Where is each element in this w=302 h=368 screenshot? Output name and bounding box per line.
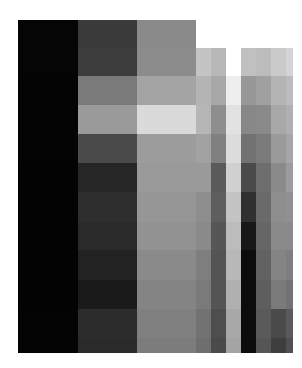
mosaic-cell [271,76,286,105]
mosaic-cell [256,309,271,338]
mosaic-cell [18,222,78,250]
mosaic-cell [226,76,241,105]
mosaic-cell [78,20,137,48]
mosaic-cell [226,105,241,134]
mosaic-cell [78,76,137,105]
mosaic-cell [241,76,256,105]
mosaic-cell [18,280,78,309]
mosaic-cell [137,105,196,134]
mosaic-cell [196,134,211,163]
mosaic-cell [18,192,78,222]
mosaic-cell [271,338,286,353]
mosaic-cell [211,309,226,338]
mosaic-cell [211,338,226,353]
mosaic-cell [196,309,211,338]
mosaic-cell [137,192,196,222]
mosaic-cell [256,76,271,105]
mosaic-cell [137,338,196,353]
mosaic-cell [226,338,241,353]
mosaic-cell [271,48,286,76]
mosaic-cell [271,134,286,163]
mosaic-cell [241,163,256,192]
mosaic-cell [286,76,293,105]
mosaic-cell [241,280,256,309]
mosaic-cell [18,105,78,134]
mosaic-cell [286,338,293,353]
mosaic-cell [256,192,271,222]
mosaic-cell [196,250,211,280]
mosaic-cell [226,134,241,163]
mosaic-cell [18,76,78,105]
mosaic-cell [271,163,286,192]
mosaic-cell [286,163,293,192]
mosaic-cell [256,105,271,134]
mosaic-cell [271,280,286,309]
mosaic-cell [271,105,286,134]
mosaic-cell [196,48,211,76]
mosaic-cell [196,192,211,222]
mosaic-cell [78,192,137,222]
mosaic-cell [241,105,256,134]
mosaic-cell [137,76,196,105]
mosaic-cell [78,134,137,163]
mosaic-cell [196,76,211,105]
mosaic-cell [226,192,241,222]
mosaic-cell [137,134,196,163]
mosaic-cell [271,309,286,338]
mosaic-cell [196,222,211,250]
mosaic-cell [137,163,196,192]
mosaic-cell [18,338,78,353]
mosaic-cell [78,280,137,309]
mosaic-cell [241,338,256,353]
mosaic-cell [196,280,211,309]
mosaic-cell [211,192,226,222]
mosaic-cell [256,250,271,280]
mosaic-cell [286,250,293,280]
mosaic-cell [18,48,78,76]
mosaic-cell [286,134,293,163]
mosaic-cell [196,105,211,134]
mosaic-cell [286,280,293,309]
mosaic-cell [211,105,226,134]
mosaic-cell [211,134,226,163]
mosaic-cell [211,76,226,105]
mosaic-cell [196,338,211,353]
mosaic-cell [137,250,196,280]
mosaic-cell [286,222,293,250]
mosaic-cell [241,48,256,76]
mosaic-cell [241,222,256,250]
mosaic-cell [196,163,211,192]
mosaic-cell [78,48,137,76]
mosaic-cell [226,250,241,280]
mosaic-cell [256,48,271,76]
mosaic-cell [226,48,241,76]
mosaic-cell [137,222,196,250]
mosaic-cell [256,338,271,353]
mosaic-cell [241,309,256,338]
pixelated-image [0,0,302,368]
mosaic-cell [18,20,78,48]
mosaic-cell [78,309,137,338]
mosaic-cell [18,250,78,280]
mosaic-cell [256,280,271,309]
mosaic-cell [137,280,196,309]
mosaic-cell [211,163,226,192]
mosaic-cell [226,163,241,192]
mosaic-cell [271,250,286,280]
mosaic-cell [78,250,137,280]
mosaic-cell [18,309,78,338]
mosaic-cell [78,105,137,134]
mosaic-cell [211,48,226,76]
mosaic-cell [241,250,256,280]
mosaic-cell [78,163,137,192]
mosaic-cell [78,222,137,250]
mosaic-cell [211,280,226,309]
mosaic-cell [256,134,271,163]
mosaic-cell [286,309,293,338]
mosaic-cell [241,192,256,222]
mosaic-cell [137,48,196,76]
mosaic-cell [18,163,78,192]
mosaic-cell [226,309,241,338]
mosaic-cell [226,280,241,309]
mosaic-cell [241,134,256,163]
